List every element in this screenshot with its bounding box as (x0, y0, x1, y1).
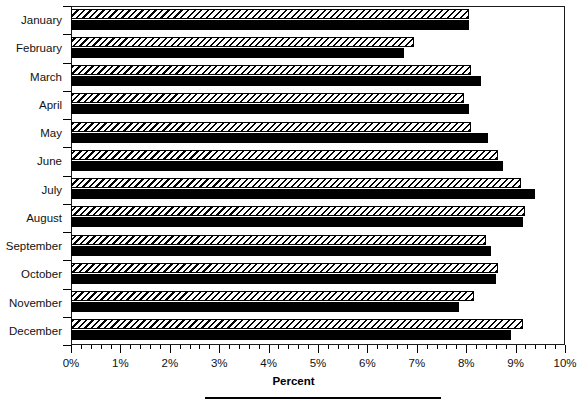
category-label-june: June (0, 155, 62, 167)
x-tick-minor (308, 345, 309, 349)
x-tick-minor (535, 345, 536, 349)
bar-group-november (71, 289, 565, 317)
x-tick-major (466, 345, 467, 353)
category-tick (63, 260, 71, 261)
bar-group-march (71, 63, 565, 91)
x-tick-minor (140, 345, 141, 349)
x-tick-minor (111, 345, 112, 349)
x-tick-minor (545, 345, 546, 349)
x-tick-minor (91, 345, 92, 349)
x-tick-minor (180, 345, 181, 349)
bar-november-hatched (71, 291, 474, 301)
bar-may-hatched (71, 122, 471, 132)
x-tick-major (417, 345, 418, 353)
x-tick-minor (427, 345, 428, 349)
bar-december-hatched (71, 319, 523, 329)
x-tick-label: 1% (97, 356, 143, 370)
bar-september-hatched (71, 235, 486, 245)
x-tick-minor (525, 345, 526, 349)
x-tick-minor (288, 345, 289, 349)
x-tick-minor (446, 345, 447, 349)
category-tick (63, 289, 71, 290)
category-label-may: May (0, 127, 62, 139)
x-tick-major (170, 345, 171, 353)
category-label-april: April (0, 99, 62, 111)
category-tick (63, 317, 71, 318)
x-tick-minor (387, 345, 388, 349)
category-label-november: November (0, 297, 62, 309)
x-tick-minor (338, 345, 339, 349)
x-tick-label: 4% (246, 356, 292, 370)
x-tick-major (565, 345, 566, 353)
category-label-october: October (0, 268, 62, 280)
category-tick (63, 147, 71, 148)
category-axis: JanuaryFebruaryMarchAprilMayJuneJulyAugu… (0, 6, 68, 345)
footer-rule (205, 397, 441, 399)
x-tick-minor (328, 345, 329, 349)
x-tick-minor (506, 345, 507, 349)
x-tick-minor (496, 345, 497, 349)
bars-layer (71, 6, 565, 345)
bar-october-solid (71, 274, 496, 284)
x-tick-minor (298, 345, 299, 349)
category-tick (63, 91, 71, 92)
bar-march-hatched (71, 65, 471, 75)
x-tick-minor (190, 345, 191, 349)
x-tick-minor (377, 345, 378, 349)
bar-may-solid (71, 133, 488, 143)
x-tick-minor (486, 345, 487, 349)
bar-group-september (71, 232, 565, 260)
x-tick-label: 5% (295, 356, 341, 370)
bar-january-solid (71, 20, 469, 30)
x-tick-minor (358, 345, 359, 349)
x-tick-minor (407, 345, 408, 349)
bar-january-hatched (71, 9, 469, 19)
x-tick-minor (81, 345, 82, 349)
bar-group-july (71, 176, 565, 204)
x-tick-minor (249, 345, 250, 349)
bar-august-solid (71, 217, 523, 227)
bar-july-solid (71, 189, 535, 199)
x-tick-major (71, 345, 72, 353)
x-tick-label: 10% (542, 356, 587, 370)
bar-group-april (71, 91, 565, 119)
bar-november-solid (71, 302, 459, 312)
x-tick-minor (101, 345, 102, 349)
bar-group-february (71, 34, 565, 62)
x-tick-minor (348, 345, 349, 349)
bar-group-august (71, 204, 565, 232)
bar-december-solid (71, 330, 511, 340)
category-tick (63, 232, 71, 233)
bar-group-may (71, 119, 565, 147)
x-axis-title: Percent (0, 375, 587, 387)
x-tick-minor (555, 345, 556, 349)
bar-june-solid (71, 161, 503, 171)
bar-group-october (71, 260, 565, 288)
category-label-january: January (0, 14, 62, 26)
x-tick-minor (456, 345, 457, 349)
bar-october-hatched (71, 263, 498, 273)
bar-july-hatched (71, 178, 521, 188)
x-tick-label: 6% (344, 356, 390, 370)
x-tick-minor (437, 345, 438, 349)
bar-group-december (71, 317, 565, 345)
value-axis-labels: 0%1%2%3%4%5%6%7%8%9%10% (0, 356, 587, 372)
category-tick (63, 34, 71, 35)
bar-group-june (71, 147, 565, 175)
x-tick-major (516, 345, 517, 353)
x-tick-major (269, 345, 270, 353)
x-tick-minor (150, 345, 151, 349)
category-label-december: December (0, 325, 62, 337)
bar-february-hatched (71, 37, 414, 47)
category-label-september: September (0, 240, 62, 252)
category-label-july: July (0, 184, 62, 196)
x-tick-major (318, 345, 319, 353)
x-tick-label: 7% (394, 356, 440, 370)
category-label-march: March (0, 71, 62, 83)
x-tick-label: 3% (196, 356, 242, 370)
x-tick-minor (209, 345, 210, 349)
category-label-february: February (0, 42, 62, 54)
category-tick (63, 204, 71, 205)
x-tick-label: 9% (493, 356, 539, 370)
category-tick (63, 6, 71, 7)
